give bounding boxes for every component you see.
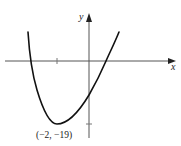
y-axis-label: y (78, 11, 84, 22)
minimum-point-label: (−2, −19) (36, 130, 72, 141)
function-curve (28, 32, 119, 124)
x-axis-label: x (170, 61, 176, 72)
y-axis-arrow-icon (86, 13, 92, 22)
y-axis (86, 13, 92, 138)
function-graph: y x (−2, −19) (0, 0, 181, 146)
